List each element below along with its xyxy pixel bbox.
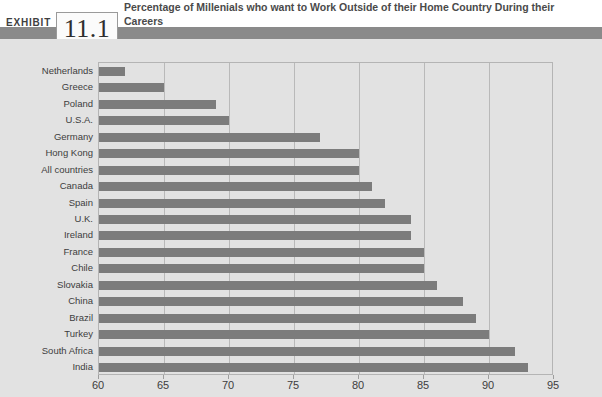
y-axis-label: Spain bbox=[0, 197, 93, 208]
y-axis-label: U.K. bbox=[0, 213, 93, 224]
y-axis-label: China bbox=[0, 295, 93, 306]
y-axis-label: Chile bbox=[0, 262, 93, 273]
bar-row bbox=[99, 244, 552, 260]
bar-row bbox=[99, 178, 552, 194]
bar bbox=[99, 100, 216, 109]
bar-row bbox=[99, 145, 552, 161]
x-axis-label: 70 bbox=[222, 379, 234, 391]
y-axis-label: India bbox=[0, 361, 93, 372]
x-axis-tick bbox=[228, 375, 229, 379]
exhibit-title: Percentage of Millenials who want to Wor… bbox=[124, 0, 594, 28]
bar-row bbox=[99, 162, 552, 178]
plot-area bbox=[98, 62, 553, 375]
bar-row bbox=[99, 294, 552, 310]
x-axis-tick bbox=[163, 375, 164, 379]
x-axis-tick bbox=[98, 375, 99, 379]
y-axis-label: Canada bbox=[0, 180, 93, 191]
y-axis-label: U.S.A. bbox=[0, 114, 93, 125]
bar bbox=[99, 67, 125, 76]
x-axis-tick bbox=[358, 375, 359, 379]
bar bbox=[99, 347, 515, 356]
y-axis-label: Germany bbox=[0, 131, 93, 142]
bar-row bbox=[99, 261, 552, 277]
bar bbox=[99, 297, 463, 306]
y-axis-label: Greece bbox=[0, 81, 93, 92]
x-axis-label: 75 bbox=[287, 379, 299, 391]
x-axis-tick bbox=[553, 375, 554, 379]
bar-series bbox=[99, 63, 552, 374]
bar bbox=[99, 199, 385, 208]
bar bbox=[99, 231, 411, 240]
y-axis-label: South Africa bbox=[0, 345, 93, 356]
bar bbox=[99, 281, 437, 290]
x-axis-label: 85 bbox=[417, 379, 429, 391]
x-axis-label: 90 bbox=[482, 379, 494, 391]
bar-row bbox=[99, 343, 552, 359]
bar bbox=[99, 133, 320, 142]
y-axis-label: Slovakia bbox=[0, 279, 93, 290]
y-axis-label: France bbox=[0, 246, 93, 257]
bar bbox=[99, 83, 164, 92]
bar-row bbox=[99, 129, 552, 145]
bar-row bbox=[99, 211, 552, 227]
y-axis-label: All countries bbox=[0, 164, 93, 175]
x-axis-tick bbox=[423, 375, 424, 379]
y-axis-label: Ireland bbox=[0, 229, 93, 240]
bar-row bbox=[99, 327, 552, 343]
bar bbox=[99, 166, 359, 175]
bar-row bbox=[99, 195, 552, 211]
bar bbox=[99, 215, 411, 224]
bar-row bbox=[99, 79, 552, 95]
x-axis-label: 95 bbox=[547, 379, 559, 391]
bar bbox=[99, 116, 229, 125]
y-axis-label: Netherlands bbox=[0, 65, 93, 76]
bar-row bbox=[99, 360, 552, 376]
y-axis-label: Brazil bbox=[0, 312, 93, 323]
y-axis-label: Turkey bbox=[0, 328, 93, 339]
bar-row bbox=[99, 310, 552, 326]
bar bbox=[99, 149, 359, 158]
y-axis-category-labels: NetherlandsGreecePolandU.S.A.GermanyHong… bbox=[0, 62, 93, 375]
x-axis-tick-labels: 6065707580859095 bbox=[0, 379, 602, 397]
bar-row bbox=[99, 277, 552, 293]
bar-chart: NetherlandsGreecePolandU.S.A.GermanyHong… bbox=[0, 39, 602, 397]
bar bbox=[99, 248, 424, 257]
y-axis-label: Poland bbox=[0, 98, 93, 109]
x-axis-tick bbox=[488, 375, 489, 379]
bar-row bbox=[99, 112, 552, 128]
bar-row bbox=[99, 228, 552, 244]
bar-row bbox=[99, 96, 552, 112]
x-axis-label: 65 bbox=[157, 379, 169, 391]
bar bbox=[99, 264, 424, 273]
x-axis-label: 60 bbox=[92, 379, 104, 391]
bar bbox=[99, 314, 476, 323]
x-axis-label: 80 bbox=[352, 379, 364, 391]
bar bbox=[99, 330, 489, 339]
x-axis-tick bbox=[293, 375, 294, 379]
bar bbox=[99, 363, 528, 372]
bar bbox=[99, 182, 372, 191]
bar-row bbox=[99, 63, 552, 79]
y-axis-label: Hong Kong bbox=[0, 147, 93, 158]
